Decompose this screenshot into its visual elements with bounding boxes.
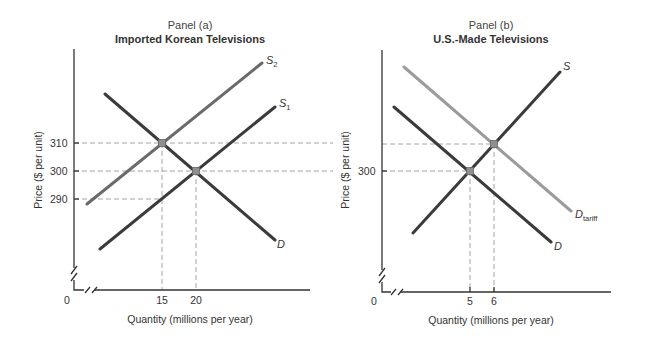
curve-s2 bbox=[87, 63, 262, 204]
panel-a-origin bbox=[74, 280, 84, 290]
panel-a: Panel (a) Imported Korean Televisions Pr… bbox=[32, 19, 333, 325]
panel-b: Panel (b) U.S.-Made Televisions Price ($… bbox=[339, 19, 611, 326]
panel-b-y-axis-label: Price ($ per unit) bbox=[339, 131, 351, 209]
panel-b-origin bbox=[382, 282, 391, 292]
label-d-tariff: Dtariff bbox=[575, 208, 598, 223]
panel-a-x-tick-0: 0 bbox=[64, 294, 70, 306]
label-s-b: S bbox=[563, 60, 571, 72]
panel-a-y-tick-310: 310 bbox=[50, 137, 68, 149]
panel-b-label: Panel (b) bbox=[469, 19, 514, 31]
tariff-chart: Panel (a) Imported Korean Televisions Pr… bbox=[0, 0, 647, 344]
panel-b-y-break-icon bbox=[379, 268, 385, 283]
equilibrium-point-b-300 bbox=[467, 168, 474, 175]
panel-b-y-tick-300: 300 bbox=[358, 165, 376, 177]
panel-a-y-tick-300: 300 bbox=[50, 165, 68, 177]
equilibrium-point-310 bbox=[159, 140, 166, 147]
panel-b-x-tick-5: 5 bbox=[467, 295, 473, 307]
panel-a-x-axis-label: Quantity (millions per year) bbox=[127, 313, 252, 325]
curve-s-b bbox=[413, 72, 560, 233]
panel-a-label: Panel (a) bbox=[168, 19, 213, 31]
panel-a-y-break-icon bbox=[71, 266, 77, 281]
panel-a-y-axis-label: Price ($ per unit) bbox=[32, 131, 44, 209]
panel-b-title: U.S.-Made Televisions bbox=[433, 33, 548, 45]
equilibrium-point-300 bbox=[193, 168, 200, 175]
panel-a-x-tick-15: 15 bbox=[156, 294, 168, 306]
label-d: D bbox=[277, 238, 285, 250]
label-d-b: D bbox=[554, 240, 562, 252]
panel-a-x-tick-20: 20 bbox=[190, 294, 202, 306]
panel-b-x-axis-label: Quantity (millions per year) bbox=[428, 314, 553, 326]
panel-b-x-tick-0: 0 bbox=[371, 295, 377, 307]
label-s1: S1 bbox=[279, 97, 291, 112]
curve-d bbox=[105, 94, 275, 240]
label-s2: S2 bbox=[266, 54, 278, 69]
panel-a-title: Imported Korean Televisions bbox=[115, 33, 265, 45]
curve-s1 bbox=[100, 107, 275, 249]
panel-b-x-tick-6: 6 bbox=[491, 295, 497, 307]
panel-a-y-tick-290: 290 bbox=[50, 193, 68, 205]
equilibrium-point-b-high bbox=[491, 141, 498, 148]
